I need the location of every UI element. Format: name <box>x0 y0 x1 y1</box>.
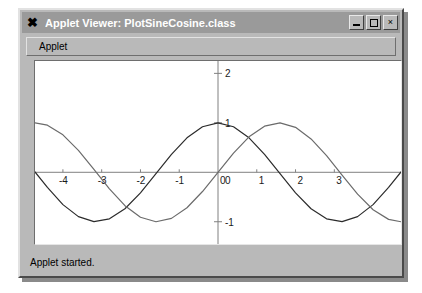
minimize-button[interactable] <box>349 15 364 30</box>
y-axis-tick-label: 0 <box>225 175 231 186</box>
maximize-button[interactable] <box>366 15 381 30</box>
window-controls: × <box>349 15 398 30</box>
y-axis-tick-label: -1 <box>225 217 234 228</box>
close-button[interactable]: × <box>383 15 398 30</box>
x-logo-icon: ✖ <box>25 15 40 30</box>
x-axis-tick-label: -2 <box>136 175 145 186</box>
applet-plot-panel: -4-3-2-10123-1012 <box>34 60 402 245</box>
y-axis-tick-label: 2 <box>225 68 231 79</box>
screenshot-root: ✖ Applet Viewer: PlotSineCosine.class × … <box>0 0 422 293</box>
x-axis-tick-label: 1 <box>259 175 265 186</box>
sine-cosine-plot: -4-3-2-10123-1012 <box>35 61 401 244</box>
y-axis-tick-label: 1 <box>225 118 231 129</box>
x-axis-tick-label: -1 <box>175 175 184 186</box>
minimize-icon <box>353 24 360 26</box>
x-axis-tick-label: 3 <box>336 175 342 186</box>
close-icon: × <box>388 18 393 27</box>
window-title: Applet Viewer: PlotSineCosine.class <box>45 17 349 29</box>
menu-item-applet[interactable]: Applet <box>33 40 73 53</box>
window-titlebar[interactable]: ✖ Applet Viewer: PlotSineCosine.class × <box>22 12 400 33</box>
applet-viewer-window: ✖ Applet Viewer: PlotSineCosine.class × … <box>18 8 404 278</box>
applet-statusbar: Applet started. <box>22 250 400 274</box>
x-axis-tick-label: 2 <box>298 175 304 186</box>
maximize-icon <box>370 19 378 27</box>
status-message: Applet started. <box>30 257 94 268</box>
x-axis-tick-label: -4 <box>59 175 68 186</box>
applet-menubar: Applet <box>26 37 396 56</box>
